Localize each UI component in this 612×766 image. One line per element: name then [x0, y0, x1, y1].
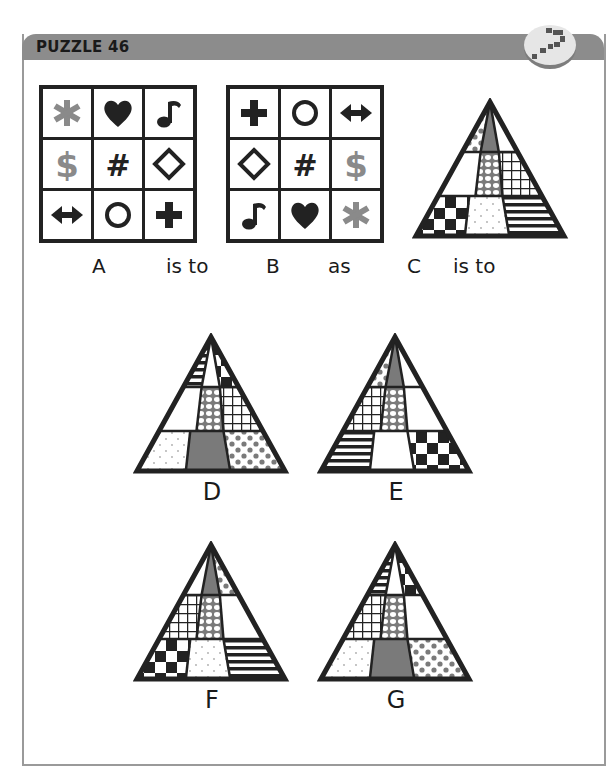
heart-icon: [288, 198, 322, 232]
grid-b-cell-1-2: $: [332, 140, 380, 188]
grid-a-cell-1-2: [145, 140, 193, 188]
hash-icon: #: [101, 147, 135, 181]
grid-b-cell-1-1: #: [281, 140, 329, 188]
dollar-gray-icon: $: [50, 147, 84, 181]
svg-text:#: #: [292, 148, 317, 181]
grid-b-cell-2-2: [332, 191, 380, 239]
asterisk-gray-icon: [50, 96, 84, 130]
option-e-label[interactable]: E: [376, 478, 416, 506]
svg-text:$: $: [344, 147, 368, 181]
grid-b-cell-1-0: [230, 140, 278, 188]
music-note-icon: [152, 96, 186, 130]
option-d-pyramid[interactable]: [133, 333, 293, 477]
tier-bottom-left: [137, 431, 190, 471]
tier-bottom-left: [321, 639, 374, 679]
plus-icon: [152, 198, 186, 232]
option-g-label[interactable]: G: [376, 686, 416, 714]
grid-b: #$: [226, 85, 384, 243]
grid-a-cell-2-2: [145, 191, 193, 239]
grid-a-cell-2-1: [94, 191, 142, 239]
circle-outline-icon: [288, 96, 322, 130]
question-mark-blocks-icon: [520, 22, 580, 70]
circle-outline-icon: [101, 198, 135, 232]
svg-text:$: $: [55, 147, 79, 181]
grid-a-cell-0-1: [94, 89, 142, 137]
label-is-to-2: is to: [453, 254, 495, 278]
grid-a-cell-1-1: #: [94, 140, 142, 188]
double-arrow-icon: [50, 198, 84, 232]
label-c: C: [407, 254, 421, 278]
music-note-icon: [237, 198, 271, 232]
option-f-pyramid[interactable]: [133, 541, 293, 685]
grid-b-cell-0-1: [281, 89, 329, 137]
option-f-label[interactable]: F: [192, 686, 232, 714]
option-d-label[interactable]: D: [192, 478, 232, 506]
option-e-pyramid[interactable]: [317, 333, 477, 477]
label-as: as: [328, 254, 351, 278]
heart-icon: [101, 96, 135, 130]
puzzle-title: PUZZLE 46: [36, 38, 130, 56]
grid-a-cell-0-2: [145, 89, 193, 137]
diamond-outline-icon: [237, 147, 271, 181]
asterisk-gray-icon: [339, 198, 373, 232]
grid-a: $#: [39, 85, 197, 243]
diamond-outline-icon: [152, 147, 186, 181]
grid-b-cell-0-0: [230, 89, 278, 137]
pyramid-c: [412, 98, 572, 242]
grid-a-cell-0-0: [43, 89, 91, 137]
grid-a-cell-1-0: $: [43, 140, 91, 188]
tier-bottom-left: [137, 639, 190, 679]
hash-icon: #: [288, 147, 322, 181]
option-g-pyramid[interactable]: [317, 541, 477, 685]
grid-b-cell-2-0: [230, 191, 278, 239]
plus-icon: [237, 96, 271, 130]
label-is-to-1: is to: [166, 254, 208, 278]
dollar-gray-icon: $: [339, 147, 373, 181]
double-arrow-icon: [339, 96, 373, 130]
grid-a-cell-2-0: [43, 191, 91, 239]
grid-b-cell-2-1: [281, 191, 329, 239]
grid-b-cell-0-2: [332, 89, 380, 137]
tier-bottom-left: [416, 196, 469, 236]
svg-text:#: #: [105, 148, 130, 181]
label-b: B: [266, 254, 280, 278]
label-a: A: [92, 254, 106, 278]
tier-bottom-left: [321, 431, 374, 471]
